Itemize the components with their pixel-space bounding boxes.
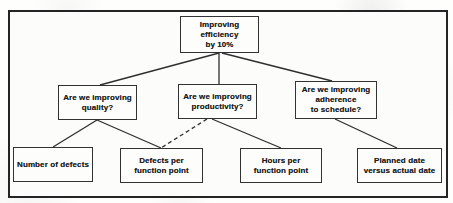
- node-goal-line: by 10%: [205, 40, 233, 50]
- node-goal-line: efficiency: [201, 30, 239, 40]
- node-question-schedule-line: Are we improving: [302, 85, 371, 95]
- node-question-productivity-line: Are we improving: [183, 92, 252, 102]
- node-metric-hours-per-function-point-line: function point: [254, 166, 309, 176]
- node-metric-hours-per-function-point: Hours per function point: [240, 148, 322, 183]
- scanned-figure: Improving efficiency by 10% Are we impro…: [0, 0, 453, 203]
- node-metric-number-of-defects-line: Number of defects: [17, 160, 89, 170]
- edge-quality-defects-fp: [97, 120, 161, 148]
- node-metric-planned-vs-actual-date-line: versus actual date: [364, 166, 436, 176]
- node-question-quality: Are we improving quality?: [58, 85, 137, 120]
- node-question-schedule-line: adherence: [316, 95, 357, 105]
- node-metric-defects-per-function-point-line: function point: [134, 166, 189, 176]
- edge-schedule-planned: [335, 119, 397, 148]
- node-metric-planned-vs-actual-date-line: Planned date: [374, 156, 425, 166]
- node-question-productivity: Are we improving productivity?: [178, 84, 257, 119]
- edge-productivity-hours-fp: [212, 119, 281, 148]
- node-goal-line: Improving: [200, 20, 240, 30]
- edge-goal-quality: [100, 53, 219, 85]
- node-metric-planned-vs-actual-date: Planned date versus actual date: [357, 148, 442, 183]
- node-question-quality-line: Are we improving: [63, 93, 132, 103]
- edge-productivity-defects-fp: [161, 119, 207, 148]
- node-metric-defects-per-function-point: Defects per function point: [120, 148, 203, 183]
- node-metric-hours-per-function-point-line: Hours per: [262, 156, 301, 166]
- edge-goal-schedule: [222, 53, 332, 81]
- node-metric-defects-per-function-point-line: Defects per: [139, 156, 184, 166]
- edge-quality-defects: [53, 120, 97, 147]
- node-question-schedule: Are we improving adherence to schedule?: [295, 81, 377, 119]
- node-question-quality-line: quality?: [82, 103, 113, 113]
- node-metric-number-of-defects: Number of defects: [13, 147, 93, 182]
- node-question-productivity-line: productivity?: [192, 102, 244, 112]
- node-question-schedule-line: to schedule?: [311, 105, 362, 115]
- node-goal: Improving efficiency by 10%: [180, 16, 259, 53]
